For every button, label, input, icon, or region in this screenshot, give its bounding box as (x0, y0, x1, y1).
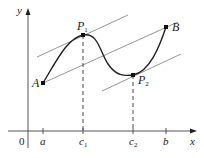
x-axis-label: x (189, 135, 195, 147)
point-p2 (131, 73, 135, 77)
y-axis-arrow-icon (26, 8, 31, 15)
label-p1: P1 (76, 19, 88, 34)
point-a (41, 81, 45, 85)
x-axis-arrow-icon (190, 129, 197, 134)
parallel-lines (37, 15, 181, 91)
tick-label-c1: c1 (79, 135, 88, 149)
tick-label-a: a (40, 135, 46, 147)
origin-label: 0 (19, 135, 25, 147)
y-axis-label: y (16, 4, 22, 16)
secant-line-ab (43, 22, 178, 83)
point-b (164, 25, 168, 29)
tick-label-c2: c2 (129, 135, 138, 149)
label-p2: P2 (137, 73, 149, 88)
tick-label-b: b (163, 135, 169, 147)
dashed-verticals (83, 35, 133, 131)
label-b: B (172, 20, 180, 34)
label-a: A (31, 76, 40, 90)
mvt-diagram: A P1 P2 B y x 0 a c1 c2 b (0, 0, 204, 158)
